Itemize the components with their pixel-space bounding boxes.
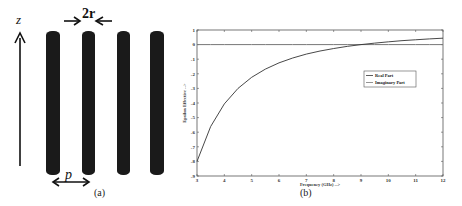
- period-label: p: [64, 167, 72, 182]
- wire-3: [117, 31, 130, 175]
- x-tick-label: 12: [441, 178, 447, 183]
- legend: Real Part Imaginary Part: [364, 71, 416, 87]
- y-tick-label: -2: [191, 72, 196, 77]
- legend-label-real: Real Part: [375, 73, 394, 78]
- plot-area: [197, 30, 443, 176]
- radius-label: 2r: [82, 6, 95, 21]
- z-axis-label: z: [15, 12, 21, 27]
- y-tick-label: -1: [191, 57, 196, 62]
- wire-1: [46, 31, 60, 175]
- y-tick-label: -7: [191, 145, 196, 150]
- wire-array: [46, 31, 164, 175]
- panel-b-chart: 10-1-2-3-4-5-6-7-8-9 3456789101112 Epsil…: [182, 28, 446, 199]
- wire-4: [150, 31, 164, 175]
- y-tick-label: -8: [191, 159, 196, 164]
- y-axis-label: Epsilon Effective -->: [182, 83, 187, 123]
- x-tick-label: 10: [386, 178, 392, 183]
- wire-2: [82, 31, 95, 175]
- x-tick-label: 3: [196, 178, 199, 183]
- panel-a: z 2r p (a): [15, 6, 164, 199]
- y-tick-label: 1: [193, 28, 196, 33]
- figure: z 2r p (a) 10-1-2-3-4-5-6-7-8-9 3456789: [0, 0, 462, 206]
- z-axis-arrow-icon: [15, 33, 25, 166]
- legend-label-imaginary: Imaginary Part: [375, 80, 405, 85]
- x-tick-label: 4: [223, 178, 226, 183]
- x-tick-label: 6: [278, 178, 281, 183]
- x-tick-label: 11: [413, 178, 418, 183]
- y-tick-label: -6: [191, 130, 196, 135]
- caption-b: (b): [300, 187, 312, 199]
- x-tick-label: 5: [250, 178, 253, 183]
- caption-a: (a): [94, 187, 105, 199]
- x-tick-label: 9: [360, 178, 363, 183]
- y-tick-label: -4: [191, 101, 196, 106]
- y-tick-label: 0: [193, 42, 196, 47]
- y-tick-label: -3: [191, 86, 196, 91]
- y-tick-label: -5: [191, 115, 196, 120]
